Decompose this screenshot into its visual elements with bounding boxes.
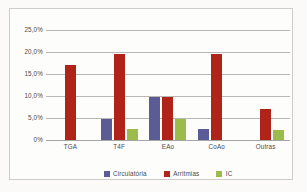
y-axis-tick-label: 25,0% bbox=[13, 26, 43, 33]
legend-label: IC bbox=[226, 170, 233, 177]
y-axis: 25,0%20,0%15,0%10,0%5,0%0% bbox=[10, 30, 43, 140]
bar-arritmias-outras bbox=[260, 109, 271, 140]
chart-frame: 25,0%20,0%15,0%10,0%5,0%0% TGAT4FEAoCoAo… bbox=[9, 8, 293, 180]
bar-arritmias-coao bbox=[211, 54, 222, 140]
legend-label: Arritmias bbox=[173, 170, 199, 177]
y-axis-tick-label: 0% bbox=[13, 136, 43, 143]
bar-group bbox=[144, 30, 193, 140]
legend-item: IC bbox=[216, 170, 232, 177]
bar-groups bbox=[46, 30, 290, 140]
x-axis: TGAT4FEAoCoAoOutras bbox=[46, 143, 290, 150]
legend-item: Arritmias bbox=[164, 170, 200, 177]
bar-group bbox=[192, 30, 241, 140]
legend-item: Circulatória bbox=[104, 170, 147, 177]
bar-arritmias-eao bbox=[162, 97, 173, 140]
x-axis-tick-label: T4F bbox=[95, 143, 144, 150]
y-axis-tick-label: 10,0% bbox=[13, 92, 43, 99]
legend-swatch-icon bbox=[104, 171, 110, 177]
legend-label: Circulatória bbox=[113, 170, 147, 177]
chart-legend: CirculatóriaArritmiasIC bbox=[46, 170, 290, 177]
x-axis-tick-label: EAo bbox=[144, 143, 193, 150]
gridline bbox=[46, 140, 290, 141]
bar-group bbox=[95, 30, 144, 140]
bar-group bbox=[241, 30, 290, 140]
y-axis-tick-label: 5,0% bbox=[13, 114, 43, 121]
chart-page: 25,0%20,0%15,0%10,0%5,0%0% TGAT4FEAoCoAo… bbox=[0, 0, 307, 192]
y-axis-tick-label: 20,0% bbox=[13, 48, 43, 55]
y-axis-tick-label: 15,0% bbox=[13, 70, 43, 77]
bar-circulatria-eao bbox=[149, 97, 160, 140]
bar-circulatria-t4f bbox=[101, 119, 112, 140]
bar-ic-eao bbox=[175, 119, 186, 140]
bar-circulatria-coao bbox=[198, 129, 209, 140]
x-axis-tick-label: Outras bbox=[241, 143, 290, 150]
bar-ic-outras bbox=[273, 130, 284, 140]
x-axis-tick-label: CoAo bbox=[192, 143, 241, 150]
legend-swatch-icon bbox=[216, 171, 222, 177]
legend-swatch-icon bbox=[164, 171, 170, 177]
x-axis-tick-label: TGA bbox=[46, 143, 95, 150]
bar-arritmias-tga bbox=[65, 65, 76, 140]
bar-group bbox=[46, 30, 95, 140]
bar-arritmias-t4f bbox=[114, 54, 125, 140]
bar-ic-t4f bbox=[127, 129, 138, 140]
